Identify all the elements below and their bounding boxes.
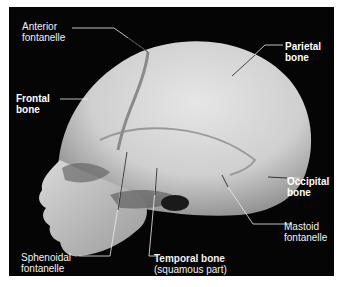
figure-panel: Anterior fontanelle Frontal bone Parieta…: [9, 7, 334, 276]
label-frontal-bone: Frontal bone: [16, 93, 50, 115]
label-mastoid-fontanelle: Mastoid fontanelle: [284, 221, 327, 243]
label-sphenoidal-fontanelle: Sphenoidal fontanelle: [21, 252, 71, 274]
label-occipital-bone: Occipital bone: [287, 176, 329, 198]
label-temporal-bone: Temporal bone (squamous part): [154, 253, 227, 275]
label-anterior-fontanelle: Anterior fontanelle: [22, 21, 65, 43]
label-parietal-bone: Parietal bone: [285, 41, 321, 63]
leader-anterior-fontanelle: [72, 28, 148, 52]
